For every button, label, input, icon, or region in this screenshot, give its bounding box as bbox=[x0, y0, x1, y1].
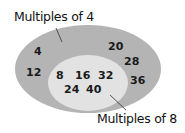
outer-set-label: Multiples of 4 bbox=[14, 9, 94, 24]
outer-element: 36 bbox=[130, 74, 145, 87]
inner-element: 16 bbox=[75, 69, 90, 82]
outer-element: 12 bbox=[26, 66, 41, 79]
outer-element: 4 bbox=[34, 45, 42, 58]
inner-element: 24 bbox=[64, 83, 79, 96]
inner-element: 8 bbox=[56, 69, 64, 82]
inner-element: 32 bbox=[98, 69, 113, 82]
inner-element: 40 bbox=[86, 83, 101, 96]
outer-element: 20 bbox=[108, 40, 123, 53]
outer-element: 28 bbox=[124, 55, 139, 68]
inner-set-label: Multiples of 8 bbox=[97, 111, 177, 126]
